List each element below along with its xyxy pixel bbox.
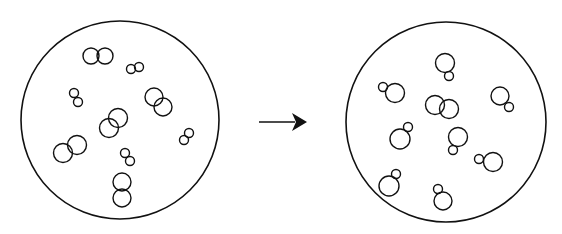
right-arrow-icon <box>259 113 307 131</box>
small-circle <box>135 63 144 72</box>
after-circle-pair <box>390 123 413 150</box>
before-circle-pair <box>145 88 172 116</box>
after-circle-pair <box>491 87 514 112</box>
after-circle-pair <box>379 83 405 103</box>
small-circle <box>484 153 503 172</box>
before-circle-pair <box>180 129 194 145</box>
before-panel <box>21 21 219 219</box>
before-circle-pair <box>121 149 135 166</box>
small-circle <box>491 87 509 105</box>
small-circle <box>126 157 135 166</box>
small-circle <box>426 96 445 115</box>
small-circle <box>154 98 172 116</box>
small-circle <box>475 155 484 164</box>
after-circle-pair <box>379 170 401 197</box>
before-circle-pair <box>83 48 113 64</box>
small-circle <box>379 176 399 196</box>
after-circle-pair <box>436 54 455 81</box>
after-circle-pair <box>426 96 459 119</box>
small-circle <box>449 146 458 155</box>
before-circle-pair <box>54 136 87 163</box>
after-circle-pair <box>434 185 453 211</box>
small-circle <box>390 129 410 149</box>
small-circle <box>449 128 468 147</box>
before-circle-pair <box>127 63 144 74</box>
before-circle-pair <box>100 109 128 138</box>
small-circle <box>445 72 454 81</box>
after-circle-pair <box>475 153 503 172</box>
small-circle <box>440 100 459 119</box>
small-circle <box>436 54 455 73</box>
before-circle-pair <box>113 173 131 207</box>
small-circle <box>54 144 73 163</box>
after-panel <box>346 22 546 222</box>
small-circle <box>505 103 514 112</box>
before-circle-pair <box>70 89 83 107</box>
diagram-canvas <box>0 0 562 234</box>
small-circle <box>386 84 405 103</box>
small-circle <box>70 89 79 98</box>
small-circle <box>145 88 163 106</box>
small-circle <box>74 98 83 107</box>
small-circle <box>180 136 189 145</box>
after-circle-pair <box>449 128 468 155</box>
small-circle <box>434 192 452 210</box>
small-circle <box>68 136 87 155</box>
